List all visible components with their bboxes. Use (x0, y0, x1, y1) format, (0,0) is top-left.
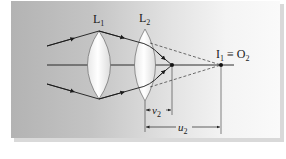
lens-l2-label: L2 (139, 11, 150, 27)
image-point-i2 (170, 63, 174, 67)
dashed-ray-bottom (150, 65, 221, 87)
point-i1-o2-label: I1 ≡ O2 (216, 47, 249, 63)
arrow-icon (157, 52, 165, 60)
optics-diagram: v2 u2 L1 L2 I1 ≡ O2 (0, 0, 286, 159)
arrow-icon (47, 84, 74, 92)
arrow-icon (157, 71, 165, 79)
lens-l2 (135, 29, 156, 101)
lens-l1-label: L1 (93, 12, 104, 28)
v2-label: v2 (152, 104, 161, 119)
arrow-icon (47, 38, 74, 46)
lens-l1 (88, 31, 111, 99)
point-i1-o2 (219, 63, 223, 67)
dashed-ray-top (150, 43, 221, 65)
u2-label: u2 (178, 121, 188, 136)
